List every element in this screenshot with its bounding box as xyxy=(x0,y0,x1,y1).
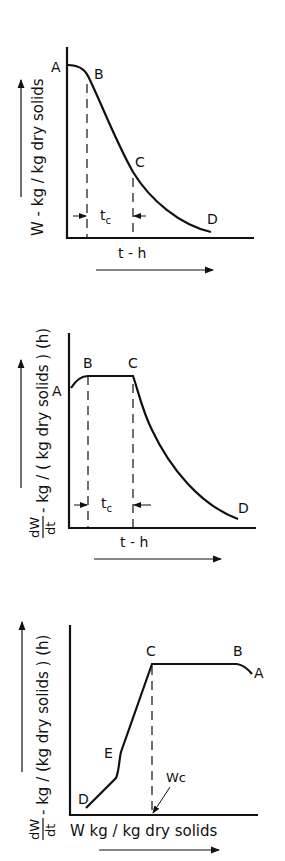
panel-moisture-vs-time: A B C D tc t - h W - kg / kg dry solids xyxy=(21,47,254,270)
y-axis-label-group: dW dt - kg / (kg dry solids ) (h) xyxy=(27,635,58,840)
y-fraction-denominator: dt xyxy=(43,522,58,535)
point-e: E xyxy=(104,745,113,761)
y-axis-label: - kg / (kg dry solids ) (h) xyxy=(34,635,52,815)
point-c: C xyxy=(128,355,138,371)
drying-curves-figure: A B C D tc t - h W - kg / kg dry solids … xyxy=(0,0,285,861)
x-axis-label: W kg / kg dry solids xyxy=(70,822,218,840)
point-d: D xyxy=(238,500,249,516)
point-b: B xyxy=(83,355,93,371)
point-c: C xyxy=(146,643,156,659)
y-axis-label: W - kg / kg dry solids xyxy=(29,78,47,236)
y-axis-label: - kg / ( kg dry solids ) (h) xyxy=(34,328,52,513)
y-fraction-denominator: dt xyxy=(43,824,58,837)
x-axis-label: t - h xyxy=(118,245,146,261)
point-d: D xyxy=(207,211,218,227)
point-a: A xyxy=(52,383,62,399)
point-a: A xyxy=(254,665,264,681)
y-fraction-numerator: dW xyxy=(27,819,42,840)
rate-curve xyxy=(86,664,252,808)
point-b: B xyxy=(94,66,104,82)
y-fraction-numerator: dW xyxy=(27,517,42,538)
point-d: D xyxy=(78,791,89,807)
point-a: A xyxy=(51,59,61,75)
moisture-curve xyxy=(68,65,211,232)
point-c: C xyxy=(135,154,145,170)
tc-label: tc xyxy=(101,495,112,514)
y-axis-label-group: dW dt - kg / ( kg dry solids ) (h) xyxy=(27,328,58,538)
panel-rate-vs-time: A B C D tc t - h dW dt - kg / ( kg dry s… xyxy=(21,328,256,559)
tc-label: tc xyxy=(100,207,111,226)
wc-pointer-arrow xyxy=(153,787,170,813)
x-axis-label: t - h xyxy=(120,534,148,550)
wc-label: Wc xyxy=(166,770,186,785)
point-b: B xyxy=(233,643,243,659)
rate-curve xyxy=(71,376,238,519)
panel-rate-vs-moisture: Wc A B C D E W kg / kg dry solids dW dt … xyxy=(22,622,264,850)
